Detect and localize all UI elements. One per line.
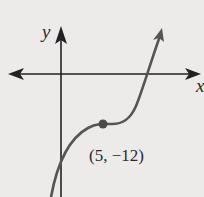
y-axis-label: y — [40, 21, 51, 42]
inflection-point — [99, 120, 108, 129]
cubic-curve — [51, 36, 160, 197]
point-label: (5, −12) — [89, 146, 144, 165]
x-axis — [8, 68, 201, 80]
x-axis-label: x — [195, 75, 204, 96]
cubic-graph: x y (5, −12) — [0, 0, 204, 197]
